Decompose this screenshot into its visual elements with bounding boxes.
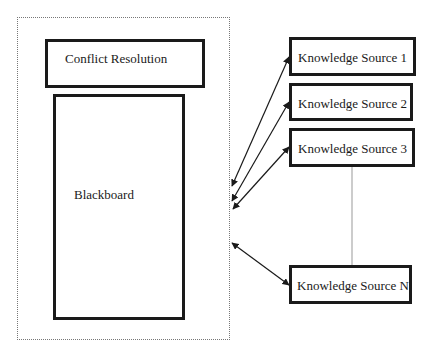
knowledge-source-3: Knowledge Source 3 — [289, 128, 415, 167]
arrow-ks1 — [232, 57, 289, 186]
knowledge-source-2: Knowledge Source 2 — [289, 83, 413, 121]
knowledge-source-1-label: Knowledge Source 1 — [298, 50, 407, 66]
arrow-ks3 — [233, 147, 289, 209]
knowledge-source-n: Knowledge Source N — [289, 265, 412, 304]
arrow-ksn — [232, 243, 289, 285]
knowledge-source-1: Knowledge Source 1 — [289, 37, 416, 76]
knowledge-source-2-label: Knowledge Source 2 — [298, 96, 407, 112]
knowledge-source-n-label: Knowledge Source N — [297, 278, 409, 294]
knowledge-source-3-label: Knowledge Source 3 — [298, 141, 407, 157]
arrow-ks2 — [232, 102, 289, 201]
